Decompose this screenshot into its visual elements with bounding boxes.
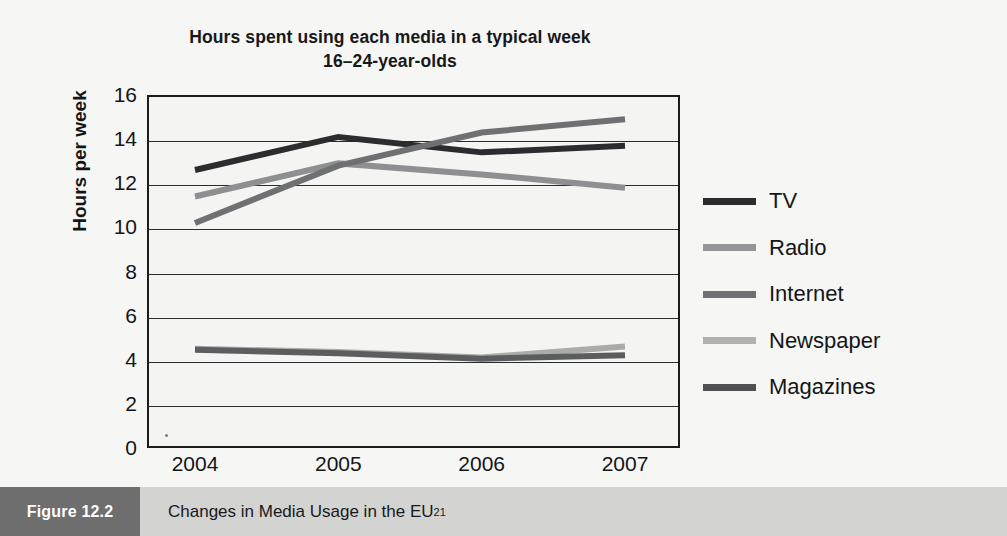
legend-item-internet: Internet	[703, 271, 983, 318]
legend-swatch-tv	[703, 198, 756, 205]
y-tick-label-0: 0	[95, 436, 137, 460]
series-line-radio	[195, 163, 625, 196]
chart-title-line-1: Hours spent using each media in a typica…	[80, 26, 700, 50]
y-tick-label-2: 2	[95, 392, 137, 416]
x-tick-label-2007: 2007	[565, 452, 685, 476]
figure-caption-text: Changes in Media Usage in the EU21	[168, 487, 446, 536]
y-tick-label-16: 16	[95, 83, 137, 107]
chart-legend: TVRadioInternetNewspaperMagazines	[703, 178, 983, 411]
legend-label-radio: Radio	[769, 235, 826, 261]
x-tick-label-2005: 2005	[278, 452, 398, 476]
legend-label-newspaper: Newspaper	[769, 328, 880, 354]
y-axis-title: Hours per week	[69, 61, 91, 261]
legend-item-newspaper: Newspaper	[703, 318, 983, 365]
legend-swatch-magazines	[703, 384, 756, 391]
legend-label-internet: Internet	[769, 281, 844, 307]
figure-page: Hours spent using each media in a typica…	[0, 0, 1007, 536]
y-tick-label-8: 8	[95, 260, 137, 284]
y-tick-label-10: 10	[95, 215, 137, 239]
legend-swatch-newspaper	[703, 337, 756, 344]
x-tick-label-2004: 2004	[135, 452, 255, 476]
chart-title: Hours spent using each media in a typica…	[80, 26, 700, 73]
figure-number-badge: Figure 12.2	[0, 487, 140, 536]
legend-item-radio: Radio	[703, 225, 983, 272]
legend-swatch-radio	[703, 244, 756, 251]
x-axis-ticks: 2004200520062007	[147, 452, 680, 486]
legend-label-magazines: Magazines	[769, 374, 875, 400]
figure-caption-bar: Figure 12.2 Changes in Media Usage in th…	[0, 487, 1007, 536]
y-tick-label-12: 12	[95, 171, 137, 195]
legend-item-magazines: Magazines	[703, 364, 983, 411]
legend-item-tv: TV	[703, 178, 983, 225]
chart-series-layer	[147, 95, 680, 448]
series-line-tv	[195, 137, 625, 170]
y-axis-ticks: 0246810121416	[95, 95, 137, 448]
legend-swatch-internet	[703, 291, 756, 298]
x-tick-label-2006: 2006	[422, 452, 542, 476]
y-tick-label-6: 6	[95, 304, 137, 328]
y-tick-label-14: 14	[95, 127, 137, 151]
y-tick-label-4: 4	[95, 348, 137, 372]
legend-label-tv: TV	[769, 188, 797, 214]
chart-title-line-2: 16–24-year-olds	[80, 50, 700, 74]
figure-caption-label: Changes in Media Usage in the EU	[168, 502, 434, 522]
